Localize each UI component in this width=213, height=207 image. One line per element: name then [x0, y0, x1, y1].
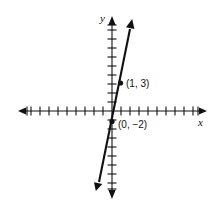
plotted-line-up-arrowhead	[126, 19, 134, 29]
y-axis-label: y	[99, 12, 105, 24]
data-point-label-0-neg2: (0, −2)	[118, 119, 147, 130]
plotted-line	[99, 29, 130, 182]
data-point-0-neg2	[109, 119, 114, 124]
x-axis-label: x	[197, 116, 203, 128]
plotted-line-down-arrowhead	[94, 182, 102, 191]
graph-canvas: (1, 3) (0, −2) y x	[0, 0, 213, 207]
coordinate-plane-figure: (1, 3) (0, −2) y x	[0, 0, 213, 207]
data-point-label-1-3: (1, 3)	[126, 78, 149, 89]
data-point-1-3	[118, 80, 123, 85]
y-axis-bottom-arrowhead	[108, 190, 115, 199]
x-axis-left-arrowhead	[18, 107, 26, 114]
x-axis-right-arrowhead	[199, 107, 207, 114]
y-axis-top-arrowhead	[108, 16, 115, 25]
